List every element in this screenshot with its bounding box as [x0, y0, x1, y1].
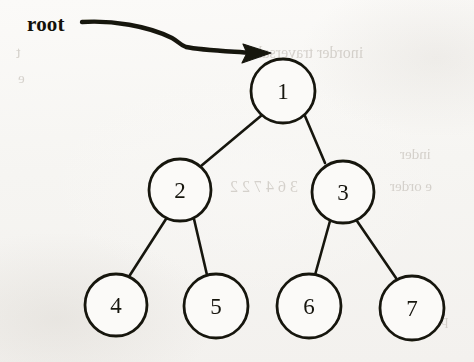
- tree-nodes: 1 2 3 4 5: [85, 59, 444, 340]
- root-arrow-head: [242, 44, 271, 63]
- tree-node-3[interactable]: 3: [312, 161, 374, 223]
- tree-node-1[interactable]: 1: [251, 59, 315, 123]
- root-arrow-shaft: [82, 22, 252, 53]
- edge-3-7: [357, 221, 396, 278]
- tree-node-2[interactable]: 2: [149, 159, 211, 221]
- edge-1-2: [201, 115, 262, 166]
- tree-node-6[interactable]: 6: [277, 274, 341, 338]
- node-value: 6: [303, 294, 315, 319]
- edge-2-5: [194, 219, 207, 275]
- tree-node-5[interactable]: 5: [184, 274, 248, 338]
- scanned-figure-page: inorder traversal t e inder 3 6 4 7 2 2 …: [0, 0, 474, 362]
- edge-1-3: [305, 116, 325, 163]
- node-value: 4: [110, 293, 122, 318]
- edge-3-6: [315, 221, 330, 275]
- node-value: 1: [277, 79, 289, 104]
- node-value: 3: [337, 180, 349, 205]
- binary-tree-graphic: 1 2 3 4 5: [0, 0, 474, 362]
- node-value: 2: [174, 178, 186, 203]
- node-value: 7: [406, 296, 418, 321]
- node-value: 5: [210, 294, 222, 319]
- tree-node-4[interactable]: 4: [85, 274, 147, 336]
- root-pointer-arrow: [82, 22, 271, 63]
- edge-2-4: [130, 219, 166, 275]
- tree-node-7[interactable]: 7: [380, 276, 444, 340]
